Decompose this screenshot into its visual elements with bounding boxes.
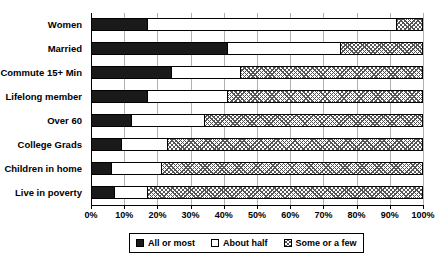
bar-segment <box>111 162 161 175</box>
legend-label: All or most <box>148 238 195 248</box>
y-axis-label: Married <box>0 37 86 61</box>
bar-segment <box>396 18 423 31</box>
y-axis-label: College Grads <box>0 133 86 157</box>
bar-row <box>91 133 423 157</box>
legend-swatch-icon <box>211 239 219 247</box>
legend-label: Some or a few <box>296 238 357 248</box>
bar-segment <box>121 138 167 151</box>
stacked-bar <box>91 138 423 151</box>
gridline <box>423 13 424 205</box>
bar-segment <box>171 66 241 79</box>
bar-segment <box>147 18 396 31</box>
x-axis-tick-label: 100% <box>403 210 443 220</box>
stacked-bar <box>91 66 423 79</box>
bar-segment <box>227 90 423 103</box>
bar-segment <box>147 186 423 199</box>
x-axis-tick <box>91 205 92 209</box>
chart-legend: All or mostAbout halfSome or a few <box>129 233 364 253</box>
bar-segment <box>91 90 147 103</box>
bar-segment <box>340 42 423 55</box>
x-axis-tick <box>157 205 158 209</box>
bar-segment <box>91 42 227 55</box>
x-axis-tick <box>357 205 358 209</box>
y-axis-label: Lifelong member <box>0 85 86 109</box>
bar-row <box>91 13 423 37</box>
stacked-bar <box>91 90 423 103</box>
stacked-bar <box>91 186 423 199</box>
bar-row <box>91 181 423 205</box>
y-axis-label: Live in poverty <box>0 181 86 205</box>
legend-label: About half <box>223 238 268 248</box>
x-axis-tick <box>323 205 324 209</box>
plot-area <box>91 13 423 205</box>
stacked-bar <box>91 18 423 31</box>
bar-segment <box>227 42 340 55</box>
stacked-bar <box>91 42 423 55</box>
bar-segment <box>91 138 121 151</box>
stacked-bar <box>91 114 423 127</box>
legend-item: About half <box>211 238 268 248</box>
bar-segment <box>91 66 171 79</box>
legend-swatch-icon <box>136 239 144 247</box>
legend-item: All or most <box>136 238 195 248</box>
bar-segment <box>204 114 423 127</box>
bar-segment <box>91 18 147 31</box>
x-axis-tick <box>390 205 391 209</box>
bar-row <box>91 109 423 133</box>
x-axis-tick <box>290 205 291 209</box>
legend-swatch-icon <box>284 239 292 247</box>
bar-segment <box>161 162 423 175</box>
bar-row <box>91 37 423 61</box>
legend-item: Some or a few <box>284 238 357 248</box>
x-axis-tick <box>191 205 192 209</box>
bar-segment <box>114 186 147 199</box>
stacked-bar-chart: WomenMarriedCommute 15+ MinLifelong memb… <box>0 0 445 257</box>
bar-segment <box>167 138 423 151</box>
x-axis-tick <box>224 205 225 209</box>
y-axis-labels: WomenMarriedCommute 15+ MinLifelong memb… <box>0 13 86 205</box>
stacked-bar <box>91 162 423 175</box>
x-axis-tick <box>257 205 258 209</box>
x-axis-tick <box>124 205 125 209</box>
bar-row <box>91 157 423 181</box>
bar-segment <box>240 66 423 79</box>
bar-segment <box>147 90 227 103</box>
y-axis-label: Commute 15+ Min <box>0 61 86 85</box>
bar-segment <box>91 114 131 127</box>
bar-segment <box>131 114 204 127</box>
y-axis-label: Women <box>0 13 86 37</box>
bar-segment <box>91 162 111 175</box>
x-axis-tick <box>423 205 424 209</box>
bar-segment <box>91 186 114 199</box>
bar-row <box>91 61 423 85</box>
y-axis-label: Over 60 <box>0 109 86 133</box>
bar-row <box>91 85 423 109</box>
y-axis-label: Children in home <box>0 157 86 181</box>
